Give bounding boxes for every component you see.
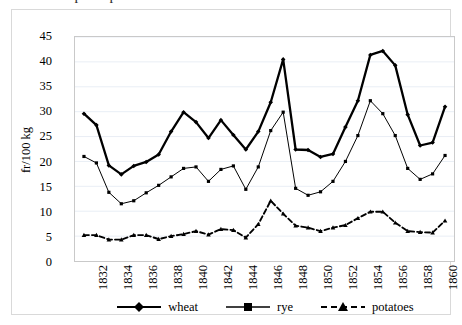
data-point bbox=[107, 191, 110, 194]
data-point bbox=[344, 160, 347, 163]
data-point bbox=[120, 202, 123, 205]
cropped-title-text: Graph of prices bbox=[52, 0, 145, 4]
data-point bbox=[293, 147, 298, 152]
data-point bbox=[294, 187, 297, 190]
y-tick-label: 25 bbox=[40, 130, 53, 143]
y-tick-label: 35 bbox=[40, 80, 53, 93]
data-point bbox=[282, 111, 285, 114]
y-tick-label: 15 bbox=[40, 180, 53, 193]
data-point bbox=[207, 180, 210, 183]
y-tick-label: 40 bbox=[40, 55, 53, 68]
chart-page: Graph of prices fr/100 kg 05101520253035… bbox=[0, 0, 462, 325]
y-axis: fr/100 kg 051015202530354045 bbox=[12, 10, 74, 316]
legend-item-wheat[interactable]: wheat bbox=[115, 300, 198, 314]
y-tick-label: 20 bbox=[40, 155, 53, 168]
data-point bbox=[419, 178, 422, 181]
data-point bbox=[170, 175, 173, 178]
data-point bbox=[406, 167, 409, 170]
series-wheat bbox=[82, 49, 448, 177]
data-point bbox=[394, 134, 397, 137]
y-tick-label: 30 bbox=[40, 105, 53, 118]
cropped-title: Graph of prices bbox=[0, 0, 462, 9]
legend-label: potatoes bbox=[372, 301, 414, 314]
data-point bbox=[145, 191, 148, 194]
chart-legend: wheatryepotatoes bbox=[74, 298, 455, 316]
data-point bbox=[443, 154, 446, 157]
series-line bbox=[84, 201, 445, 240]
chart-frame: fr/100 kg 051015202530354045 18321834183… bbox=[11, 9, 451, 315]
legend-item-potatoes[interactable]: potatoes bbox=[319, 300, 414, 314]
data-point bbox=[232, 164, 235, 167]
data-point bbox=[257, 165, 260, 168]
series-line bbox=[84, 51, 445, 174]
data-point bbox=[306, 194, 309, 197]
data-point bbox=[95, 161, 98, 164]
data-point bbox=[369, 99, 372, 102]
data-point bbox=[219, 168, 222, 171]
data-point bbox=[331, 180, 334, 183]
triangle-marker bbox=[319, 300, 367, 314]
data-point bbox=[194, 165, 197, 168]
y-tick-label: 45 bbox=[40, 30, 53, 43]
y-tick-label: 0 bbox=[46, 256, 52, 269]
data-point bbox=[431, 172, 434, 175]
data-point bbox=[356, 134, 359, 137]
y-tick-label: 5 bbox=[46, 231, 52, 244]
legend-item-rye[interactable]: rye bbox=[224, 300, 293, 314]
data-point bbox=[268, 198, 273, 202]
data-point bbox=[281, 211, 286, 215]
data-point bbox=[82, 155, 85, 158]
square-marker bbox=[224, 300, 272, 314]
y-tick-label: 10 bbox=[40, 206, 53, 219]
data-point bbox=[256, 222, 261, 226]
data-point bbox=[182, 167, 185, 170]
diamond-marker bbox=[115, 300, 163, 314]
data-point bbox=[132, 199, 135, 202]
plot-area bbox=[74, 36, 455, 262]
data-point bbox=[443, 218, 448, 222]
series-potatoes bbox=[82, 198, 448, 241]
data-point bbox=[319, 190, 322, 193]
data-point bbox=[244, 188, 247, 191]
legend-label: wheat bbox=[168, 301, 198, 314]
plot-svg bbox=[75, 37, 454, 261]
legend-label: rye bbox=[277, 301, 293, 314]
data-point bbox=[157, 184, 160, 187]
y-axis-title: fr/100 kg bbox=[18, 95, 34, 205]
data-point bbox=[269, 129, 272, 132]
data-point bbox=[381, 112, 384, 115]
